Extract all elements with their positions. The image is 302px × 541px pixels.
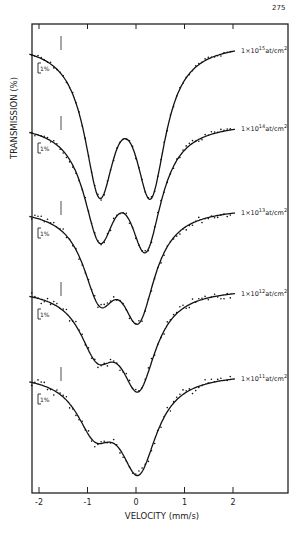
data-point: [148, 197, 150, 199]
data-point: [75, 102, 77, 104]
data-point: [53, 67, 55, 69]
data-point: [113, 218, 115, 220]
data-point: [170, 173, 172, 175]
data-point: [119, 369, 121, 371]
data-point: [220, 214, 222, 216]
data-point: [220, 55, 222, 57]
data-point: [223, 130, 225, 132]
data-point: [141, 387, 143, 389]
data-point: [122, 139, 124, 141]
data-point: [148, 367, 150, 369]
data-point: [151, 290, 153, 292]
spectra-curves: 1%1%1%1%1%: [29, 36, 235, 476]
data-point: [151, 196, 153, 198]
data-point: [211, 215, 213, 217]
data-point: [195, 301, 197, 303]
data-point: [214, 381, 216, 383]
data-point: [56, 143, 58, 145]
data-point: [100, 441, 102, 443]
data-point: [50, 304, 52, 306]
data-point: [122, 212, 124, 214]
data-point: [144, 250, 146, 252]
data-point: [62, 308, 64, 310]
data-point: [170, 241, 172, 243]
data-point: [103, 440, 105, 442]
data-point: [157, 430, 159, 432]
data-point: [129, 380, 131, 382]
data-point: [230, 297, 232, 299]
data-point: [217, 379, 219, 381]
x-axis-label: VELOCITY (mm/s): [125, 511, 199, 521]
data-point: [103, 242, 105, 244]
data-point: [53, 140, 55, 142]
data-point: [211, 131, 213, 133]
plot-frame: [32, 24, 288, 493]
data-point: [214, 293, 216, 295]
data-point: [141, 250, 143, 252]
data-point: [201, 139, 203, 141]
data-point: [126, 212, 128, 214]
data-point: [44, 382, 46, 384]
data-point: [173, 167, 175, 169]
data-point: [69, 320, 71, 322]
data-point: [47, 61, 49, 63]
data-point: [81, 420, 83, 422]
data-point: [126, 373, 128, 375]
data-point: [66, 309, 68, 311]
data-point: [135, 473, 137, 475]
data-point: [40, 381, 42, 383]
x-tick-label: 1: [182, 498, 187, 507]
data-point: [31, 218, 33, 220]
data-point: [37, 297, 39, 299]
data-point: [230, 376, 232, 378]
data-point: [88, 430, 90, 432]
data-point: [88, 347, 90, 349]
data-point: [119, 213, 121, 215]
data-point: [198, 387, 200, 389]
data-point: [157, 175, 159, 177]
data-point: [119, 142, 121, 144]
data-point: [85, 138, 87, 140]
data-point: [103, 304, 105, 306]
data-point: [208, 135, 210, 137]
data-point: [107, 365, 109, 367]
data-point: [34, 135, 36, 137]
data-point: [107, 180, 109, 182]
data-point: [220, 377, 222, 379]
data-point: [204, 296, 206, 298]
y-axis-label: TRANSMISSION (%): [9, 77, 19, 160]
data-point: [78, 111, 80, 113]
data-point: [31, 54, 33, 56]
data-point: [107, 302, 109, 304]
data-point: [116, 300, 118, 302]
data-point: [192, 225, 194, 227]
data-point: [192, 298, 194, 300]
data-point: [110, 300, 112, 302]
data-point: [69, 238, 71, 240]
data-point: [40, 135, 42, 137]
data-point: [132, 146, 134, 148]
data-point: [135, 389, 137, 391]
data-point: [189, 225, 191, 227]
data-point: [189, 143, 191, 145]
data-point: [97, 444, 99, 446]
data-point: [144, 310, 146, 312]
scale-bar-label: 1%: [40, 311, 50, 318]
data-point: [223, 213, 225, 215]
data-point: [157, 343, 159, 345]
series-labels: 1×1015at/cm21×1014at/cm21×1013at/cm21×10…: [241, 45, 287, 383]
data-point: [201, 222, 203, 224]
data-point: [189, 307, 191, 309]
data-point: [148, 250, 150, 252]
data-point: [116, 147, 118, 149]
data-point: [75, 248, 77, 250]
data-point: [141, 321, 143, 323]
data-point: [119, 300, 121, 302]
data-point: [75, 172, 77, 174]
data-point: [182, 82, 184, 84]
series-label: 1×1014at/cm2: [241, 123, 287, 133]
data-point: [44, 59, 46, 61]
data-point: [97, 307, 99, 309]
data-point: [226, 216, 228, 218]
data-point: [97, 240, 99, 242]
